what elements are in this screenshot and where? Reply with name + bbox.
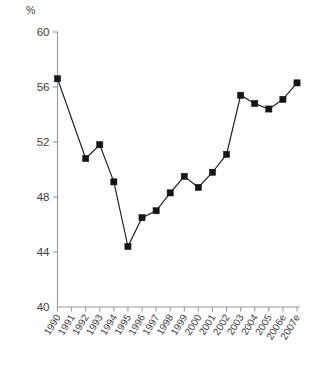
- data-point-marker: [181, 173, 187, 179]
- line-chart: 404448525660 199019911992199319941995199…: [0, 0, 311, 384]
- y-tick-label: 56: [37, 81, 50, 93]
- data-point-marker: [294, 80, 300, 86]
- data-point-marker: [139, 215, 145, 221]
- y-tick-label: 52: [37, 136, 50, 148]
- y-axis-unit-label: %: [26, 4, 35, 16]
- data-point-marker: [111, 179, 117, 185]
- y-tick-label: 44: [37, 246, 50, 258]
- data-point-marker: [223, 151, 229, 157]
- y-tick-label: 60: [37, 26, 50, 38]
- y-axis: 404448525660: [37, 26, 58, 313]
- data-point-marker: [167, 190, 173, 196]
- data-point-marker: [280, 96, 286, 102]
- x-axis: 1990199119921993199419951996199719981999…: [42, 307, 303, 342]
- data-markers: [54, 76, 300, 250]
- data-point-marker: [125, 243, 131, 249]
- y-tick-label: 48: [37, 191, 50, 203]
- y-tick-label: 40: [37, 301, 50, 313]
- chart-container: 404448525660 199019911992199319941995199…: [0, 0, 311, 384]
- data-point-marker: [54, 76, 60, 82]
- data-series: [58, 79, 298, 247]
- data-point-marker: [238, 92, 244, 98]
- series-path: [58, 79, 298, 247]
- data-point-marker: [195, 184, 201, 190]
- data-point-marker: [83, 155, 89, 161]
- data-point-marker: [266, 106, 272, 112]
- data-point-marker: [153, 208, 159, 214]
- data-point-marker: [209, 169, 215, 175]
- data-point-marker: [252, 100, 258, 106]
- data-point-marker: [97, 142, 103, 148]
